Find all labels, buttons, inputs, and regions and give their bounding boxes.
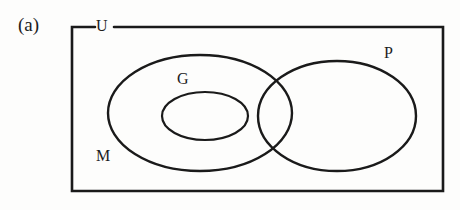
set-p-ellipse (258, 61, 416, 171)
venn-diagram-figure: (a) U G M P (0, 0, 460, 210)
set-g-ellipse (162, 92, 248, 140)
set-m-ellipse (108, 55, 292, 171)
universe-set-label: U (96, 18, 108, 34)
panel-label: (a) (18, 15, 39, 34)
set-p-label: P (384, 45, 393, 61)
set-m-label: M (96, 148, 110, 164)
set-g-label: G (177, 71, 189, 87)
venn-diagram-canvas (0, 0, 460, 210)
